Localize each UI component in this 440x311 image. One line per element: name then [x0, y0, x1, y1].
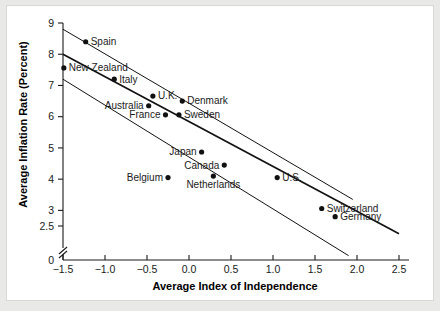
data-point [199, 149, 204, 154]
y-tick-label: 4 [48, 173, 54, 185]
data-point [275, 175, 280, 180]
data-point-label: Spain [91, 36, 117, 47]
chart-svg: 98765432.50−1.5−1.0−0.50.00.51.01.52.02.… [7, 6, 435, 302]
x-tick-label: 2.0 [350, 263, 365, 275]
x-tick-label: −1.0 [95, 263, 116, 275]
data-point [146, 103, 151, 108]
data-point-label: U.K. [158, 90, 177, 101]
data-point-label: Canada [184, 160, 219, 171]
x-tick-label: 0.0 [182, 263, 197, 275]
y-tick-label: 2.5 [39, 220, 54, 232]
x-tick-label: 2.5 [392, 263, 407, 275]
data-point [83, 39, 88, 44]
x-axis-title: Average Index of Independence [152, 280, 317, 292]
data-point-label: U.S. [282, 172, 301, 183]
y-axis-break-icon [59, 247, 67, 254]
y-tick-label: 3 [48, 204, 54, 216]
data-point [211, 173, 216, 178]
data-point [165, 175, 170, 180]
data-point [112, 77, 117, 82]
data-point-label: New Zealand [69, 62, 128, 73]
y-tick-label: 7 [48, 79, 54, 91]
data-point [163, 112, 168, 117]
y-tick-label: 8 [48, 48, 54, 60]
data-point-label: Italy [119, 74, 137, 85]
x-tick-label: 1.0 [266, 263, 281, 275]
data-point [150, 93, 155, 98]
x-tick-label: 1.5 [308, 263, 323, 275]
data-point-label: Japan [169, 146, 196, 157]
data-point [176, 112, 181, 117]
data-point-label: Belgium [127, 172, 163, 183]
data-point [222, 163, 227, 168]
y-axis-title: Average Inflation Rate (Percent) [17, 41, 29, 208]
data-point-label: Germany [340, 211, 381, 222]
scatter-chart: 98765432.50−1.5−1.0−0.50.00.51.01.52.02.… [7, 6, 435, 302]
y-tick-label: 5 [48, 142, 54, 154]
data-point-label: Netherlands [186, 179, 240, 190]
y-tick-label: 6 [48, 110, 54, 122]
data-point [319, 206, 324, 211]
x-tick-label: −1.5 [53, 263, 74, 275]
x-tick-label: 0.5 [224, 263, 239, 275]
data-point [180, 98, 185, 103]
y-tick-label: 9 [48, 17, 54, 29]
data-point-label: Sweden [184, 109, 220, 120]
data-point [61, 65, 66, 70]
data-point-label: France [129, 109, 161, 120]
data-point [333, 214, 338, 219]
data-point-label: Denmark [187, 95, 229, 106]
x-tick-label: −0.5 [137, 263, 158, 275]
figure-card: 98765432.50−1.5−1.0−0.50.00.51.01.52.02.… [6, 5, 434, 301]
